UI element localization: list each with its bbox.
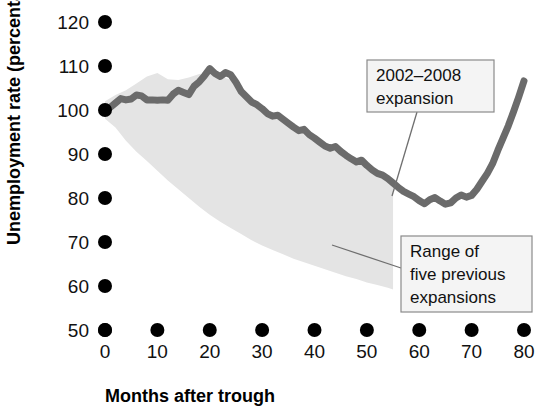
x-tick-dot xyxy=(255,323,269,337)
callout-text-line: Range of xyxy=(410,242,479,261)
chart-figure: 5060708090100110120 01020304050607080 Mo… xyxy=(0,0,551,412)
x-tick-label: 0 xyxy=(100,341,111,362)
y-tick-dot xyxy=(98,235,112,249)
y-tick-label: 90 xyxy=(68,144,89,165)
x-axis-ticks: 01020304050607080 xyxy=(98,323,535,362)
y-tick-dot xyxy=(98,15,112,29)
x-tick-dot xyxy=(517,323,531,337)
x-tick-label: 40 xyxy=(304,341,325,362)
y-axis-title: Unemployment rate (percentage of trough) xyxy=(4,0,24,245)
x-tick-dot xyxy=(465,323,479,337)
x-tick-dot xyxy=(360,323,374,337)
y-tick-dot xyxy=(98,103,112,117)
callout-text-line: five previous xyxy=(410,265,505,284)
y-tick-label: 60 xyxy=(68,276,89,297)
x-tick-label: 80 xyxy=(513,341,534,362)
y-tick-label: 70 xyxy=(68,232,89,253)
y-tick-label: 120 xyxy=(57,12,89,33)
x-tick-dot xyxy=(308,323,322,337)
y-tick-label: 80 xyxy=(68,188,89,209)
x-tick-dot xyxy=(412,323,426,337)
y-tick-dot xyxy=(98,147,112,161)
y-tick-dot xyxy=(98,191,112,205)
x-tick-dot xyxy=(203,323,217,337)
x-tick-label: 10 xyxy=(147,341,168,362)
y-tick-label: 50 xyxy=(68,320,89,341)
x-tick-label: 60 xyxy=(409,341,430,362)
x-tick-label: 70 xyxy=(461,341,482,362)
x-axis-title: Months after trough xyxy=(105,386,275,406)
y-tick-dot xyxy=(98,279,112,293)
x-tick-label: 20 xyxy=(199,341,220,362)
y-tick-label: 110 xyxy=(59,56,89,77)
x-tick-label: 30 xyxy=(252,341,273,362)
x-tick-label: 50 xyxy=(356,341,377,362)
x-tick-dot xyxy=(98,323,112,337)
callout-text-line: expansion xyxy=(376,89,454,108)
callout-text-line: 2002–2008 xyxy=(376,66,461,85)
unemployment-rate-chart: 5060708090100110120 01020304050607080 Mo… xyxy=(0,0,551,412)
y-tick-label: 100 xyxy=(57,100,89,121)
y-tick-dot xyxy=(98,59,112,73)
x-tick-dot xyxy=(150,323,164,337)
callout-text-line: expansions xyxy=(410,288,496,307)
